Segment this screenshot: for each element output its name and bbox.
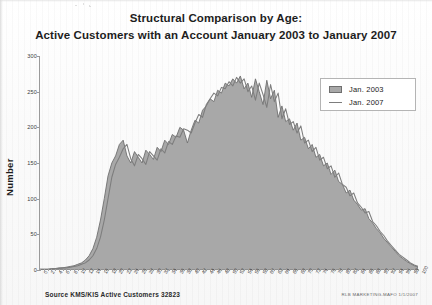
x-tick-mark xyxy=(395,269,396,271)
x-tick-mark xyxy=(82,269,83,271)
x-tick-mark xyxy=(297,269,298,271)
chart-title-line-2: Active Customers with an Account January… xyxy=(0,27,432,44)
x-tick-mark xyxy=(312,269,313,271)
x-tick-mark xyxy=(229,269,230,271)
x-tick-mark xyxy=(240,269,241,271)
x-tick-mark xyxy=(361,269,362,271)
scan-speckle-artifact xyxy=(72,2,94,9)
x-tick-mark xyxy=(233,269,234,271)
x-tick-mark xyxy=(324,269,325,271)
x-tick-mark xyxy=(203,269,204,271)
x-tick-mark xyxy=(248,269,249,271)
y-tick-mark xyxy=(37,163,40,164)
x-tick-mark xyxy=(112,269,113,271)
y-tick-mark xyxy=(37,127,40,128)
x-tick-mark xyxy=(259,269,260,271)
x-tick-mark xyxy=(165,269,166,271)
x-tick-mark xyxy=(301,269,302,271)
x-tick-mark xyxy=(150,269,151,271)
x-tick-mark xyxy=(104,269,105,271)
x-tick-mark xyxy=(44,269,45,271)
x-tick-mark xyxy=(286,269,287,271)
x-tick-mark xyxy=(176,269,177,271)
x-tick-mark xyxy=(180,269,181,271)
x-tick-mark xyxy=(142,269,143,271)
x-tick-mark xyxy=(308,269,309,271)
x-tick-mark xyxy=(74,269,75,271)
x-tick-mark xyxy=(51,269,52,271)
y-tick-label: 250 xyxy=(27,89,37,95)
x-tick-mark xyxy=(206,269,207,271)
x-tick-mark xyxy=(244,269,245,271)
x-tick-mark xyxy=(376,269,377,271)
footer-stamp-text: RLB MARKETING-MAFO 1/1/2007 xyxy=(342,292,418,297)
x-tick-mark xyxy=(138,269,139,271)
x-tick-mark xyxy=(119,269,120,271)
legend-swatch-line-icon xyxy=(329,102,342,103)
x-tick-mark xyxy=(108,269,109,271)
y-tick-mark xyxy=(37,199,40,200)
y-tick-mark xyxy=(37,234,40,235)
x-tick-mark xyxy=(399,269,400,271)
x-tick-mark xyxy=(255,269,256,271)
legend-item-jan-2003: Jan. 2003 xyxy=(329,83,415,96)
x-tick-mark xyxy=(97,269,98,271)
chart-legend: Jan. 2003 Jan. 2007 xyxy=(320,78,416,111)
x-tick-mark xyxy=(418,269,419,271)
x-tick-mark xyxy=(407,269,408,271)
x-tick-mark xyxy=(195,269,196,271)
y-tick-mark xyxy=(37,56,40,57)
x-tick-mark xyxy=(191,269,192,271)
x-tick-mark xyxy=(346,269,347,271)
x-tick-mark xyxy=(339,269,340,271)
legend-item-jan-2007: Jan. 2007 xyxy=(329,96,415,109)
x-tick-mark xyxy=(392,269,393,271)
y-tick-label: 150 xyxy=(27,160,37,166)
x-tick-mark xyxy=(293,269,294,271)
footer-source-text: Source KMS/KIS Active Customers 32823 xyxy=(45,291,180,298)
y-tick-mark xyxy=(37,92,40,93)
x-tick-mark xyxy=(278,269,279,271)
x-tick-mark xyxy=(157,269,158,271)
x-tick-mark xyxy=(135,269,136,271)
x-tick-mark xyxy=(70,269,71,271)
chart-title-block: Structural Comparison by Age: Active Cus… xyxy=(0,10,432,44)
x-tick-mark xyxy=(354,269,355,271)
x-tick-mark xyxy=(384,269,385,271)
x-tick-mark xyxy=(59,269,60,271)
y-axis-label: Number xyxy=(4,158,15,196)
x-tick-mark xyxy=(380,269,381,271)
x-tick-mark xyxy=(263,269,264,271)
x-tick-mark xyxy=(331,269,332,271)
x-tick-mark xyxy=(55,269,56,271)
legend-label-jan-2007: Jan. 2007 xyxy=(349,98,384,107)
x-tick-mark xyxy=(89,269,90,271)
x-tick-mark xyxy=(414,269,415,271)
x-tick-mark xyxy=(123,269,124,271)
x-tick-mark xyxy=(369,269,370,271)
x-tick-mark xyxy=(127,269,128,271)
x-tick-mark xyxy=(172,269,173,271)
legend-swatch-area-icon xyxy=(329,86,342,93)
x-tick-mark xyxy=(271,269,272,271)
x-tick-mark xyxy=(316,269,317,271)
x-tick-mark xyxy=(365,269,366,271)
x-tick-mark xyxy=(66,269,67,271)
y-tick-label: 200 xyxy=(27,124,37,130)
x-tick-mark xyxy=(40,269,41,271)
legend-label-jan-2003: Jan. 2003 xyxy=(349,85,384,94)
x-tick-mark xyxy=(210,269,211,271)
y-tick-label: 100 xyxy=(27,196,37,202)
chart-title-line-1: Structural Comparison by Age: xyxy=(0,10,432,27)
x-tick-mark xyxy=(327,269,328,271)
y-tick-label: 300 xyxy=(27,53,37,59)
x-tick-mark xyxy=(218,269,219,271)
x-tick-mark xyxy=(225,269,226,271)
x-tick-mark xyxy=(187,269,188,271)
scan-edge-artifact-top xyxy=(0,0,432,2)
